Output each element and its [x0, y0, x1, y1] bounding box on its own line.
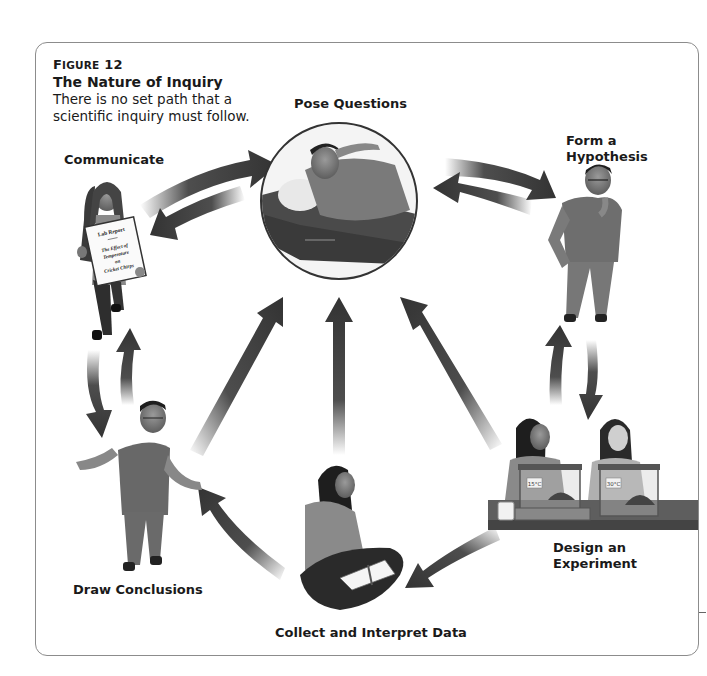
tank-left-label: 15°C [528, 481, 542, 487]
arrow-collect-data-to-draw-conclusions [198, 487, 285, 580]
arrow-design-to-collect-data [405, 527, 500, 588]
arrow-draw-conclusions-to-pose-questions [190, 297, 283, 456]
label-communicate: Communicate [64, 152, 164, 168]
collect-data-figure [300, 466, 403, 610]
arrow-draw-conclusions-to-communicate [116, 328, 141, 405]
communicate-figure: Lab Report The Effect of Temperature on … [77, 182, 146, 340]
arrow-communicate-to-draw-conclusions [86, 350, 112, 438]
design-experiment-figure: 15°C 30°C [488, 418, 698, 530]
arrow-collect-data-to-pose-questions [325, 297, 353, 455]
hypothesis-figure [548, 164, 622, 322]
label-pose-questions: Pose Questions [294, 96, 407, 112]
label-draw-conclusions: Draw Conclusions [73, 582, 203, 598]
arrow-hypothesis-to-design [579, 340, 603, 420]
arrow-design-to-hypothesis [545, 325, 572, 405]
label-collect-interpret-data: Collect and Interpret Data [275, 625, 467, 641]
arrow-design-to-pose-questions [400, 297, 502, 450]
label-design-experiment: Design an Experiment [553, 540, 637, 572]
label-form-hypothesis: Form a Hypothesis [566, 133, 648, 165]
tank-right-label: 30°C [607, 481, 621, 487]
pose-questions-photo [261, 123, 420, 279]
